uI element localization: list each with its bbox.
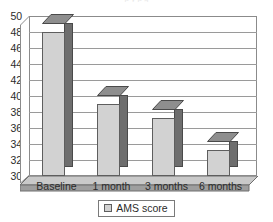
plot-area [29, 16, 257, 176]
y-axis-tick-label: 36 [0, 123, 22, 133]
bar-front-face [207, 150, 230, 176]
bar-top-face [207, 132, 239, 142]
y-axis-tick-label: 48 [0, 27, 22, 37]
y-axis-tick-label: 44 [0, 59, 22, 69]
bar-side-face [119, 95, 128, 167]
clipped-title-text: p y p g [0, 0, 273, 2]
bar-6-months [207, 141, 239, 176]
y-axis-tick-label: 38 [0, 107, 22, 117]
y-axis-tick-label: 40 [0, 91, 22, 101]
bar-3-months [152, 109, 184, 176]
bar-top-face [152, 100, 184, 110]
y-axis-tick-label: 42 [0, 75, 22, 85]
y-axis-tick-label: 34 [0, 139, 22, 149]
x-axis-tick-label: 1 month [84, 180, 139, 192]
y-axis-tick-label: 32 [0, 155, 22, 165]
bar-chart: p y p g 5048464442403836343230 Baseline1… [0, 0, 273, 222]
bar-1-month [97, 95, 129, 176]
y-axis-tick-label: 30 [0, 171, 22, 181]
legend: AMS score [0, 200, 273, 217]
y-axis-tick-label: 46 [0, 43, 22, 53]
bar-top-face [42, 14, 74, 24]
y-axis-tick-label: 50 [0, 11, 22, 21]
bar-front-face [42, 32, 65, 176]
bar-baseline [42, 23, 74, 176]
x-axis: Baseline1 month3 months6 months [29, 180, 257, 194]
x-axis-tick-label: Baseline [29, 180, 84, 192]
bar-side-face [229, 141, 238, 167]
x-axis-tick-label: 3 months [139, 180, 194, 192]
ams-score-swatch-icon [104, 204, 112, 212]
bar-side-face [64, 23, 73, 167]
y-axis: 5048464442403836343230 [0, 0, 22, 190]
bar-front-face [97, 104, 120, 176]
bar-side-face [174, 109, 183, 167]
legend-box: AMS score [98, 200, 174, 217]
x-axis-tick-label: 6 months [193, 180, 248, 192]
legend-item-label: AMS score [116, 202, 167, 214]
bar-top-face [97, 86, 129, 96]
bar-front-face [152, 118, 175, 176]
